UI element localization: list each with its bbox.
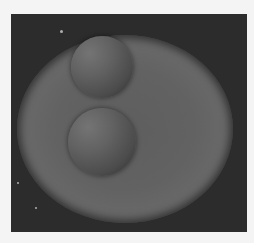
image-frame — [11, 14, 247, 232]
upper-sphere — [71, 36, 133, 98]
lower-sphere — [68, 108, 136, 176]
bright-speck — [17, 182, 19, 184]
bright-speck — [35, 207, 37, 209]
bright-speck — [60, 30, 63, 33]
